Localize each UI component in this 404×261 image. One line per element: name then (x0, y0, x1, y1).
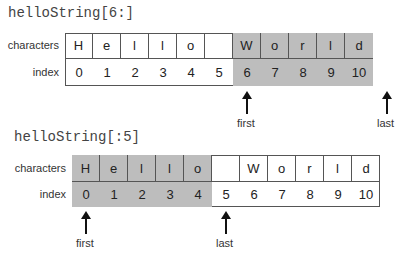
characters-row-label: characters (1, 39, 59, 51)
index-cell: 9 (317, 59, 345, 86)
index-cell: 0 (72, 182, 100, 207)
index-cell: 7 (261, 59, 289, 86)
string-table: H0e1l2l3o45W6o7r8l9d10 (65, 33, 373, 86)
index-cell: 10 (352, 182, 380, 207)
index-cell: 9 (324, 182, 352, 207)
char-cell: r (296, 155, 324, 182)
index-row-label: index (8, 188, 66, 200)
index-cell: 2 (128, 182, 156, 207)
char-cell: W (233, 33, 261, 59)
arrow-up-icon (246, 98, 248, 114)
slice-expression: helloString[6:] (8, 5, 134, 21)
char-cell: o (184, 155, 212, 182)
characters-row-label: characters (8, 162, 66, 174)
char-cell: l (156, 155, 184, 182)
char-cell: H (72, 155, 100, 182)
char-cell: d (352, 155, 380, 182)
slice-expression: helloString[:5] (14, 129, 140, 145)
index-cell: 6 (240, 182, 268, 207)
char-cell (205, 33, 233, 59)
index-cell: 1 (100, 182, 128, 207)
pointer-label-first: first (237, 117, 255, 129)
string-table: H0e1l2l3o45W6o7r8l9d10 (72, 155, 380, 207)
index-cell: 7 (268, 182, 296, 207)
arrow-up-icon (386, 98, 388, 114)
char-cell: d (345, 33, 373, 59)
char-cell: o (268, 155, 296, 182)
index-cell: 10 (345, 59, 373, 86)
index-cell: 8 (296, 182, 324, 207)
index-cell: 3 (156, 182, 184, 207)
char-cell: l (128, 155, 156, 182)
pointer-label-last: last (377, 117, 394, 129)
pointer-label-first: first (76, 237, 94, 249)
index-cell: 4 (177, 59, 205, 86)
char-cell: e (93, 33, 121, 59)
char-cell: o (177, 33, 205, 59)
arrow-up-icon (85, 218, 87, 234)
char-cell: l (317, 33, 345, 59)
arrow-up-icon (225, 218, 227, 234)
index-cell: 8 (289, 59, 317, 86)
index-cell: 5 (212, 182, 240, 207)
index-cell: 4 (184, 182, 212, 207)
char-cell: r (289, 33, 317, 59)
char-cell (212, 155, 240, 182)
char-cell: H (65, 33, 93, 59)
index-cell: 1 (93, 59, 121, 86)
pointer-label-last: last (216, 237, 233, 249)
char-cell: l (149, 33, 177, 59)
char-cell: l (121, 33, 149, 59)
index-cell: 6 (233, 59, 261, 86)
char-cell: o (261, 33, 289, 59)
char-cell: W (240, 155, 268, 182)
index-cell: 2 (121, 59, 149, 86)
index-row-label: index (1, 66, 59, 78)
index-cell: 5 (205, 59, 233, 86)
char-cell: l (324, 155, 352, 182)
index-cell: 0 (65, 59, 93, 86)
index-cell: 3 (149, 59, 177, 86)
char-cell: e (100, 155, 128, 182)
